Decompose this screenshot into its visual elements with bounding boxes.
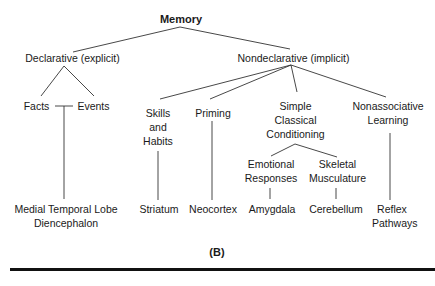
connector-lines — [0, 0, 435, 286]
root-node: Memory — [155, 12, 207, 26]
facts-node: Facts — [20, 99, 53, 113]
cerebellum-node: Cerebellum — [308, 202, 364, 216]
priming-node: Priming — [193, 106, 233, 120]
events-node: Events — [75, 99, 112, 113]
amygdala-node: Amygdala — [248, 202, 296, 216]
conditioning-node: Simple Classical Conditioning — [263, 99, 328, 141]
skeletal-node: Skeletal Musculature — [305, 157, 370, 185]
panel-label: (B) — [204, 245, 230, 259]
reflex-node: Reflex Pathways — [372, 202, 412, 230]
nonassociative-node: Nonassociative Learning — [348, 99, 428, 127]
declarative-node: Declarative (explicit) — [20, 51, 125, 65]
neocortex-node: Neocortex — [189, 202, 237, 216]
striatum-node: Striatum — [138, 202, 180, 216]
nondeclarative-node: Nondeclarative (implicit) — [236, 51, 351, 65]
bottom-rule — [10, 268, 435, 271]
skills-habits-node: Skills and Habits — [140, 106, 176, 148]
medial-temporal-node: Medial Temporal Lobe Diencephalon — [10, 202, 122, 230]
emotional-node: Emotional Responses — [243, 157, 299, 185]
